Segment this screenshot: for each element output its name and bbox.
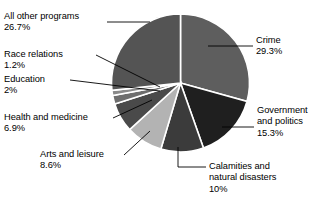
callout-calamities: Calamities and natural disasters 10% bbox=[209, 161, 276, 195]
callout-all-other-programs-label: All other programs bbox=[4, 11, 79, 21]
callout-race-relations: Race relations 1.2% bbox=[4, 49, 63, 72]
callout-all-other-programs: All other programs 26.7% bbox=[4, 11, 79, 34]
callout-health-and-medicine-label: Health and medicine bbox=[4, 112, 88, 122]
callout-government-and-politics: Government and politics 15.3% bbox=[257, 105, 308, 139]
pie-chart-figure: All other programs 26.7% Race relations … bbox=[0, 0, 328, 202]
callout-all-other-programs-value: 26.7% bbox=[4, 22, 79, 33]
callout-crime-value: 29.3% bbox=[256, 46, 282, 57]
callout-government-and-politics-label-line2: and politics bbox=[257, 116, 308, 127]
callout-arts-and-leisure-value: 8.6% bbox=[40, 160, 104, 171]
callout-government-and-politics-label-line1: Government bbox=[257, 105, 308, 115]
callout-arts-and-leisure: Arts and leisure 8.6% bbox=[40, 149, 104, 172]
callout-education-value: 2% bbox=[4, 85, 45, 96]
callout-education-label: Education bbox=[4, 74, 45, 84]
callout-calamities-label-line2: natural disasters bbox=[209, 172, 276, 183]
callout-race-relations-value: 1.2% bbox=[4, 60, 63, 71]
callout-crime-label: Crime bbox=[256, 35, 281, 45]
callout-calamities-value: 10% bbox=[209, 184, 276, 195]
callout-health-and-medicine-value: 6.9% bbox=[4, 123, 88, 134]
callout-government-and-politics-value: 15.3% bbox=[257, 128, 308, 139]
callout-arts-and-leisure-label: Arts and leisure bbox=[40, 149, 104, 159]
callout-race-relations-label: Race relations bbox=[4, 49, 63, 59]
callout-health-and-medicine: Health and medicine 6.9% bbox=[4, 112, 88, 135]
pie-slices bbox=[111, 14, 249, 152]
callout-crime: Crime 29.3% bbox=[256, 35, 282, 58]
callout-calamities-label-line1: Calamities and bbox=[209, 161, 270, 171]
slice-all-other-programs[interactable] bbox=[111, 14, 180, 90]
callout-education: Education 2% bbox=[4, 74, 45, 97]
